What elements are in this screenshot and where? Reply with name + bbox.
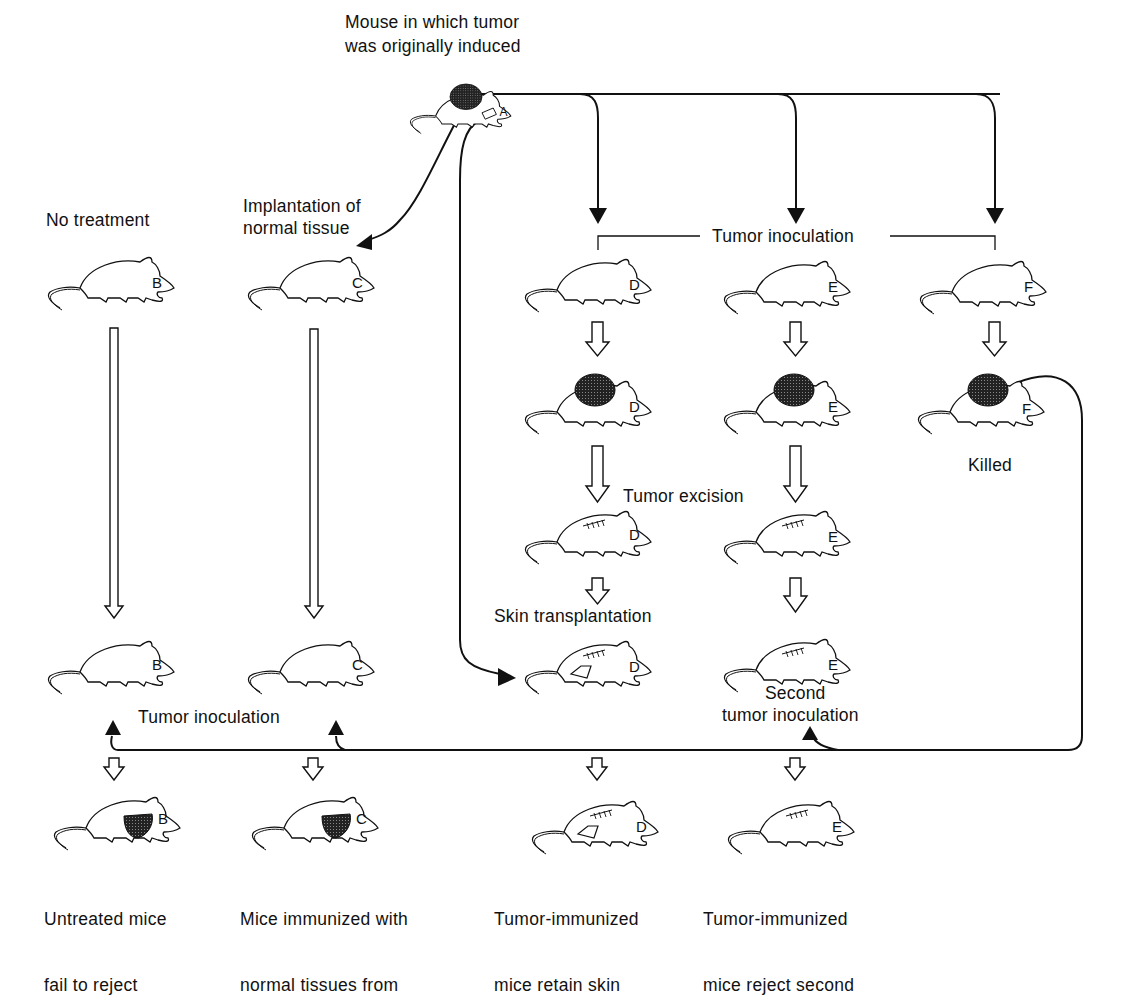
label-killed: Killed xyxy=(968,455,1012,476)
mouse-e-excised: E xyxy=(724,512,850,565)
caption-d-line: mice retain skin xyxy=(494,974,640,996)
svg-text:E: E xyxy=(828,528,838,545)
mouse-e-tumor: E xyxy=(724,374,850,434)
svg-text:C: C xyxy=(352,274,363,291)
svg-text:E: E xyxy=(832,818,842,835)
svg-text:D: D xyxy=(629,526,640,543)
svg-text:E: E xyxy=(828,656,838,673)
mouse-b-result: B xyxy=(54,798,180,851)
mouse-d-skin-graft: D xyxy=(525,642,651,695)
hollow-arrow-d2-icon xyxy=(586,446,609,502)
caption-b: Untreated mice fail to reject tumor inoc… xyxy=(44,864,168,1005)
caption-b-line: fail to reject xyxy=(44,974,168,996)
svg-text:E: E xyxy=(828,398,838,415)
svg-text:B: B xyxy=(158,810,168,827)
svg-text:D: D xyxy=(629,658,640,675)
hollow-arrow-d3-icon xyxy=(586,578,609,604)
arrow-skin-transplant-icon xyxy=(498,668,516,686)
svg-text:D: D xyxy=(636,818,647,835)
caption-c-line: normal tissues from xyxy=(240,974,416,996)
hollow-arrow-bottom-d-icon xyxy=(587,758,607,780)
arrow-inoculation-b-icon xyxy=(105,720,121,735)
arrow-down-f-icon xyxy=(986,208,1004,224)
title-line-1: Mouse in which tumor xyxy=(345,12,519,33)
arrow-inoculation-c-icon xyxy=(328,720,344,735)
hollow-arrow-d1-icon xyxy=(586,322,609,356)
mouse-e-initial: E xyxy=(724,262,850,315)
arrow-second-inoculation-icon xyxy=(802,726,818,740)
svg-text:B: B xyxy=(152,656,162,673)
svg-text:D: D xyxy=(629,276,640,293)
hollow-arrow-bottom-e-icon xyxy=(785,758,805,780)
label-implantation-1: Implantation of xyxy=(243,196,361,217)
svg-text:F: F xyxy=(1024,278,1033,295)
hollow-arrow-e2-icon xyxy=(784,446,807,502)
hollow-arrow-e3-icon xyxy=(784,578,807,612)
hollow-arrow-e1-icon xyxy=(784,322,807,356)
mouse-c-result: C xyxy=(252,798,378,851)
label-second-1: Second xyxy=(765,683,826,704)
mouse-c-middle: C xyxy=(248,642,374,695)
arrow-down-d-icon xyxy=(589,208,607,224)
mouse-b-initial: B xyxy=(48,258,174,311)
label-skin-transplantation: Skin transplantation xyxy=(494,606,652,627)
caption-d: Tumor-immunized mice retain skin grafts … xyxy=(494,864,640,1005)
caption-e-line: Tumor-immunized xyxy=(703,908,854,930)
label-tumor-inoculation-top: Tumor inoculation xyxy=(708,226,858,247)
label-tumor-excision: Tumor excision xyxy=(623,486,744,507)
hollow-arrow-b-icon xyxy=(105,328,123,618)
label-no-treatment: No treatment xyxy=(46,210,150,231)
label-tumor-inoculation-bottom: Tumor inoculation xyxy=(138,707,280,728)
svg-text:C: C xyxy=(356,810,367,827)
svg-text:C: C xyxy=(352,656,363,673)
mouse-a: A xyxy=(410,84,510,134)
caption-d-line: Tumor-immunized xyxy=(494,908,640,930)
mouse-d-initial: D xyxy=(525,260,651,313)
mouse-d-result: D xyxy=(532,802,658,855)
caption-e: Tumor-immunized mice reject second tumor… xyxy=(703,864,854,1005)
mouse-d-tumor: D xyxy=(525,374,651,434)
svg-text:F: F xyxy=(1022,400,1031,417)
hollow-arrow-bottom-c-icon xyxy=(303,758,323,780)
mouse-d-excised: D xyxy=(525,512,651,565)
hollow-arrow-bottom-b-icon xyxy=(104,758,124,780)
mouse-b-middle: B xyxy=(48,642,174,695)
caption-c-line: Mice immunized with xyxy=(240,908,416,930)
hollow-arrow-c-icon xyxy=(305,329,323,618)
arrow-implant-icon xyxy=(356,234,372,250)
mouse-c-initial: C xyxy=(248,258,374,311)
mouse-f-initial: F xyxy=(920,262,1046,315)
label-implantation-2: normal tissue xyxy=(243,218,350,239)
caption-c: Mice immunized with normal tissues from … xyxy=(240,864,416,1005)
diagram-canvas: A B C D E F D E F D xyxy=(0,0,1121,1005)
svg-text:B: B xyxy=(152,274,162,291)
svg-text:D: D xyxy=(629,398,640,415)
svg-text:E: E xyxy=(828,278,838,295)
mouse-f-tumor: F xyxy=(918,374,1044,434)
mouse-e-result: E xyxy=(728,802,854,855)
arrow-down-e-icon xyxy=(787,208,805,224)
hollow-arrow-f1-icon xyxy=(983,322,1006,356)
title-line-2: was originally induced xyxy=(345,36,521,57)
label-second-2: tumor inoculation xyxy=(722,705,859,726)
caption-e-line: mice reject second xyxy=(703,974,854,996)
caption-b-line: Untreated mice xyxy=(44,908,168,930)
mouse-a-letter: A xyxy=(500,105,508,119)
